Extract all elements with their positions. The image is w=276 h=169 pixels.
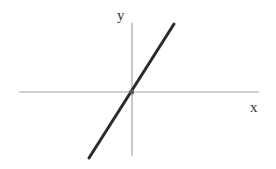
y-axis-label: y	[117, 7, 125, 23]
origin-point	[129, 90, 134, 95]
x-axis-label: x	[250, 99, 258, 115]
coordinate-diagram: y x	[0, 0, 276, 169]
